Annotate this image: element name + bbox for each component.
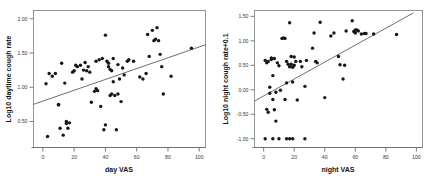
x-tick-label: 40 bbox=[103, 154, 109, 160]
data-point bbox=[46, 135, 49, 138]
data-point bbox=[274, 119, 277, 122]
data-point bbox=[299, 60, 302, 63]
plot-frame-right bbox=[255, 11, 423, 148]
y-tick-label: 0.50 bbox=[238, 62, 248, 68]
data-point bbox=[293, 64, 296, 67]
data-point bbox=[271, 74, 274, 77]
x-tick-label: 0 bbox=[41, 154, 44, 160]
data-point bbox=[268, 91, 271, 94]
data-point bbox=[169, 75, 172, 78]
data-point bbox=[303, 137, 306, 140]
data-point bbox=[107, 62, 110, 65]
x-tick-label: 0 bbox=[262, 154, 265, 160]
data-point bbox=[332, 31, 335, 34]
data-point bbox=[83, 61, 86, 64]
data-point bbox=[47, 72, 50, 75]
data-point bbox=[104, 123, 107, 126]
data-point bbox=[90, 101, 93, 104]
x-axis-title-left: day VAS bbox=[105, 166, 133, 174]
x-tick-label: 100 bbox=[412, 154, 421, 160]
data-point bbox=[337, 55, 340, 58]
data-point bbox=[274, 91, 277, 94]
data-point bbox=[157, 39, 160, 42]
data-point bbox=[303, 85, 306, 88]
data-point bbox=[151, 29, 154, 32]
data-point bbox=[122, 73, 125, 76]
data-point bbox=[146, 33, 149, 36]
data-point bbox=[190, 46, 193, 49]
data-point bbox=[265, 108, 268, 111]
data-point bbox=[318, 21, 321, 24]
data-point bbox=[148, 55, 151, 58]
panel-daytime-cough: 0204060801000.501.001.502.00 Log10 dayti… bbox=[0, 0, 217, 178]
y-tick-label: 0.00 bbox=[238, 87, 248, 93]
data-point bbox=[267, 60, 270, 63]
data-point bbox=[121, 66, 124, 69]
data-point bbox=[88, 70, 91, 73]
y-tick-label: -0.50 bbox=[237, 111, 249, 117]
data-point bbox=[279, 89, 282, 92]
data-point bbox=[354, 31, 357, 34]
data-point bbox=[68, 121, 71, 124]
data-point bbox=[54, 72, 57, 75]
data-point bbox=[63, 81, 66, 84]
y-tick-label: 1.00 bbox=[238, 38, 248, 44]
data-point bbox=[294, 60, 297, 63]
data-point bbox=[277, 64, 280, 67]
data-point bbox=[132, 59, 135, 62]
data-point bbox=[344, 29, 347, 32]
data-point bbox=[101, 57, 104, 60]
data-point bbox=[65, 122, 68, 125]
y-tick-label: 1.00 bbox=[17, 84, 27, 90]
data-point bbox=[291, 137, 294, 140]
y-axis-title-left: Log10 daytime cough rate bbox=[5, 36, 13, 123]
data-point bbox=[160, 65, 163, 68]
data-point bbox=[94, 59, 97, 62]
data-point bbox=[364, 32, 367, 35]
data-point bbox=[116, 63, 119, 66]
data-point bbox=[305, 59, 308, 62]
x-tick-label: 100 bbox=[195, 154, 204, 160]
data-point bbox=[62, 133, 65, 136]
data-point bbox=[44, 82, 47, 85]
data-point bbox=[80, 77, 83, 80]
data-point bbox=[112, 80, 115, 83]
data-point bbox=[315, 61, 318, 64]
data-point bbox=[323, 96, 326, 99]
y-tick-label: 2.00 bbox=[17, 16, 27, 22]
x-tick-label: 20 bbox=[71, 154, 77, 160]
data-point bbox=[341, 77, 344, 80]
x-tick-label: 80 bbox=[383, 154, 389, 160]
data-point bbox=[285, 137, 288, 140]
scatter-plot-figure: 0204060801000.501.001.502.00 Log10 dayti… bbox=[0, 0, 434, 178]
data-point bbox=[60, 62, 63, 65]
data-point bbox=[267, 111, 270, 114]
data-point bbox=[288, 21, 291, 24]
data-point bbox=[270, 56, 273, 59]
data-point bbox=[311, 46, 314, 49]
data-point bbox=[268, 86, 271, 89]
x-axis-title-right: night VAS bbox=[322, 166, 355, 174]
data-point bbox=[360, 32, 363, 35]
data-point bbox=[271, 98, 274, 101]
data-point bbox=[99, 105, 102, 108]
data-point bbox=[154, 38, 157, 41]
data-point bbox=[57, 103, 60, 106]
x-tick-label: 20 bbox=[291, 154, 297, 160]
data-point bbox=[76, 65, 79, 68]
data-point bbox=[87, 65, 90, 68]
y-tick-label: 0.50 bbox=[17, 118, 27, 124]
data-point bbox=[372, 32, 375, 35]
data-point bbox=[285, 81, 288, 84]
data-point bbox=[291, 80, 294, 83]
data-point bbox=[116, 92, 119, 95]
data-point bbox=[110, 92, 113, 95]
chart-daytime-cough: 0204060801000.501.001.502.00 Log10 dayti… bbox=[0, 0, 217, 178]
data-point bbox=[351, 19, 354, 22]
data-point bbox=[329, 34, 332, 37]
x-tick-label: 40 bbox=[322, 154, 328, 160]
data-point bbox=[127, 58, 130, 61]
data-point bbox=[138, 75, 141, 78]
data-point bbox=[276, 61, 279, 64]
data-point bbox=[271, 137, 274, 140]
